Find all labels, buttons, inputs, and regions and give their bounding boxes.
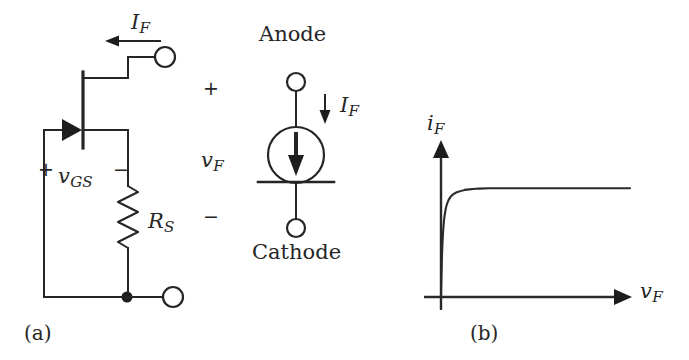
forward-characteristic-curve [441, 188, 630, 297]
x-axis-arrowhead [614, 289, 632, 305]
y-axis-arrowhead [433, 140, 449, 158]
panel-b-caption: (b) [470, 323, 498, 343]
panel-b-chart [0, 0, 689, 360]
figure-container: IF + vGS − RS + vF − (a) Anode IF Cathod… [0, 0, 689, 360]
x-axis-label: vF [640, 281, 663, 305]
y-axis-label: iF [427, 113, 445, 137]
